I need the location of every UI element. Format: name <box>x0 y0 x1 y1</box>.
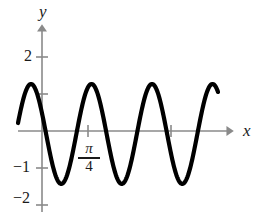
y-tick-label-neg2: −2 <box>13 190 30 206</box>
y-axis-label: y <box>39 3 47 20</box>
x-axis-label: x <box>243 122 251 139</box>
cosine-curve <box>18 84 218 184</box>
fraction-denominator-4: 4 <box>78 159 100 174</box>
y-tick-label-2: 2 <box>24 48 32 64</box>
y-tick-label-neg1: −1 <box>13 159 30 175</box>
math-graph-figure: y x 2 −1 −2 π 4 <box>0 0 268 224</box>
graph-canvas <box>0 0 268 224</box>
fraction-numerator-pi: π <box>78 141 100 156</box>
x-tick-label-pi-over-4: π 4 <box>78 141 100 174</box>
